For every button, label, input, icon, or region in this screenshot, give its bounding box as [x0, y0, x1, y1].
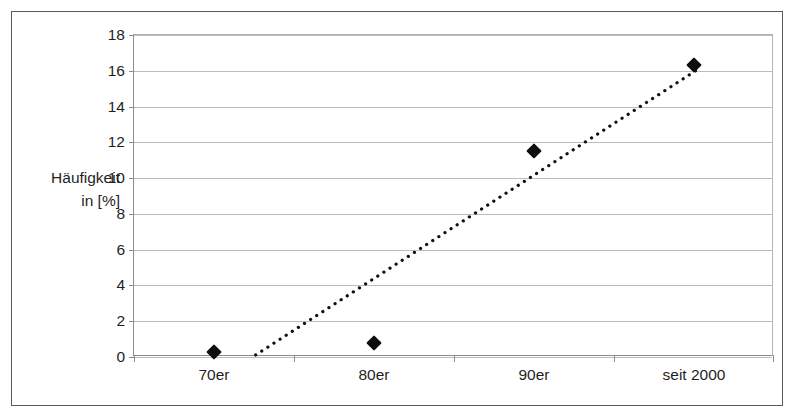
- y-tick-mark-16: [129, 71, 134, 72]
- y-tick-label-8: 8: [116, 206, 125, 222]
- x-tick-mark-0: [134, 355, 135, 362]
- y-tick-label-10: 10: [108, 170, 125, 186]
- y-tick-label-12: 12: [108, 134, 125, 150]
- trendline-path: [256, 69, 699, 355]
- x-tick-mark-4: [773, 355, 774, 362]
- plot-area: 0 2 4 6 8 10 12 14 16 18 70er 80er 90er …: [133, 34, 773, 356]
- gridline-8: [134, 214, 772, 215]
- y-tick-label-4: 4: [116, 277, 125, 293]
- y-tick-mark-14: [129, 107, 134, 108]
- y-axis-title: Häufigkeit in [%]: [16, 166, 120, 212]
- y-axis-title-line-1: Häufigkeit: [16, 166, 120, 189]
- y-tick-mark-8: [129, 214, 134, 215]
- x-tick-label-90er: 90er: [518, 367, 549, 383]
- y-tick-mark-4: [129, 285, 134, 286]
- chart-figure: Häufigkeit in [%]: [0, 0, 794, 419]
- y-tick-label-2: 2: [116, 313, 125, 329]
- gridline-12: [134, 142, 772, 143]
- gridline-16: [134, 71, 772, 72]
- gridline-18: [134, 35, 772, 36]
- gridline-10: [134, 178, 772, 179]
- gridline-2: [134, 321, 772, 322]
- x-tick-label-80er: 80er: [358, 367, 389, 383]
- trendline: [134, 35, 772, 355]
- x-tick-label-70er: 70er: [198, 367, 229, 383]
- y-tick-mark-18: [129, 35, 134, 36]
- data-point-90er: [526, 143, 542, 159]
- y-tick-label-14: 14: [108, 99, 125, 115]
- gridline-0: [134, 357, 772, 358]
- gridline-4: [134, 285, 772, 286]
- gridline-6: [134, 250, 772, 251]
- y-tick-mark-2: [129, 321, 134, 322]
- x-tick-label-seit-2000: seit 2000: [663, 367, 726, 383]
- y-tick-mark-10: [129, 178, 134, 179]
- gridline-14: [134, 107, 772, 108]
- x-tick-mark-1: [294, 355, 295, 362]
- y-tick-label-16: 16: [108, 63, 125, 79]
- x-tick-mark-2: [454, 355, 455, 362]
- y-tick-label-0: 0: [116, 349, 125, 365]
- data-point-80er: [366, 335, 382, 351]
- x-tick-mark-3: [614, 355, 615, 362]
- y-axis-title-line-2: in [%]: [16, 189, 120, 212]
- y-tick-label-6: 6: [116, 242, 125, 258]
- y-tick-label-18: 18: [108, 27, 125, 43]
- y-tick-mark-12: [129, 142, 134, 143]
- y-tick-mark-6: [129, 250, 134, 251]
